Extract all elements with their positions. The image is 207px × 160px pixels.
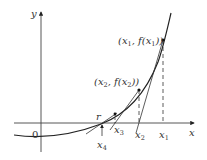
origin-label: 0 [32,129,38,140]
tick-label-x4: x4 [97,139,107,152]
newton-method-diagram: y x 0 r (x1, f(x1)) (x2, f(x2)) x1 x2 x3… [0,0,207,160]
root-label: r [96,111,102,122]
tick-label-x2: x2 [135,129,145,142]
function-curve [14,13,171,137]
tangent-line-x1 [136,40,163,133]
point-x2-label: (x2, f(x2)) [94,76,139,89]
point-x2 [137,88,140,91]
point-x1-label: (x1, f(x1)) [118,35,163,48]
y-axis-label: y [30,8,37,19]
tick-label-x3: x3 [114,124,124,137]
point-x3 [114,113,117,116]
tangent-line-x3 [86,113,117,134]
tick-label-x1: x1 [159,129,169,142]
x-axis-label: x [189,127,195,138]
